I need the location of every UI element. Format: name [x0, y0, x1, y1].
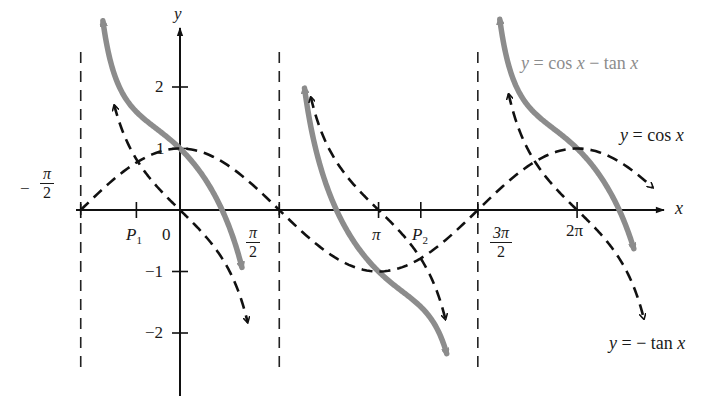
p2-letter: P: [412, 225, 422, 244]
axes: [76, 28, 664, 396]
fraction-denominator: 2: [249, 243, 257, 261]
two-pi-text: 2π: [566, 221, 583, 240]
p1-letter: P: [126, 225, 136, 244]
annotation-cos-minus-tan: y = cos x − tan x: [521, 54, 638, 72]
x-tick-label-p1: P1: [126, 226, 142, 246]
x-axis-label: x: [675, 199, 683, 217]
curve-costan-solid: [305, 88, 447, 354]
p2-subscript: 2: [422, 234, 428, 246]
minus-sign: −: [20, 180, 30, 197]
x-tick-label-2pi: 2π: [566, 222, 583, 239]
fraction-numerator: π: [246, 225, 260, 243]
curve-tan-dashed: [311, 97, 446, 319]
y-tick-label-2: 2: [155, 78, 164, 95]
y-tick-label-minus-1: −1: [145, 263, 163, 280]
annotation-neg-tan: y = − tan x: [609, 334, 685, 352]
fraction-denominator: 2: [497, 243, 505, 261]
x-tick-label-pi-half: π 2: [246, 225, 260, 261]
x-tick-label-neg-pi-half: π 2: [40, 166, 54, 202]
curve-costan-solid: [103, 21, 242, 268]
x-tick-label-p2: P2: [412, 226, 428, 246]
p1-subscript: 1: [136, 234, 142, 246]
origin-label: 0: [162, 226, 171, 243]
y-axis-label: y: [174, 5, 182, 22]
x-tick-label-3pi-half: 3π 2: [490, 225, 512, 261]
fraction-denominator: 2: [43, 184, 51, 202]
y-tick-label-1: 1: [156, 140, 165, 157]
annotation-cos: y = cos x: [620, 126, 684, 144]
fraction-numerator: 3π: [490, 225, 512, 243]
y-tick-label-minus-2: −2: [145, 324, 163, 341]
x-tick-label-pi: π: [372, 226, 381, 243]
fraction-numerator: π: [40, 166, 54, 184]
